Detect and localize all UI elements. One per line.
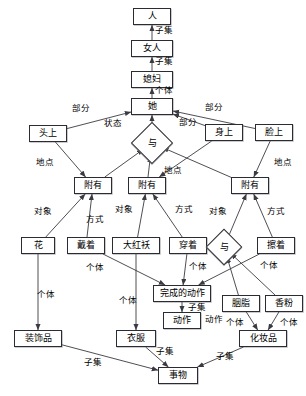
- edge-label: 子集: [216, 352, 234, 361]
- edge-yu2-to-fuyou3: [228, 194, 247, 238]
- edge-chuanzhe-to-wanchengdongzuo: [183, 254, 187, 285]
- edge-label: 方式: [175, 205, 193, 214]
- edge-label: 个体: [226, 318, 244, 327]
- edge-daizhe-to-wanchengdongzuo: [103, 254, 165, 285]
- node-yifu: 衣服: [116, 330, 156, 347]
- node-fuyou1: 附有: [74, 177, 112, 194]
- node-ren: 人: [133, 8, 171, 25]
- node-label-shiwu: 事物: [169, 371, 187, 380]
- node-label-yanzhi: 胭脂: [232, 299, 250, 308]
- edge-label: 对象: [209, 207, 227, 216]
- node-fuyou2: 附有: [128, 177, 166, 194]
- node-label-lianshang: 脸上: [265, 128, 283, 137]
- edge-label: 子集: [155, 57, 173, 66]
- node-label-fuyou3: 附有: [241, 181, 259, 190]
- node-label-yu1: 与: [137, 128, 167, 158]
- edge-label: 个体: [260, 261, 278, 270]
- node-label-fuyou1: 附有: [84, 181, 102, 190]
- node-label-dahongao: 大红袄: [123, 241, 150, 250]
- node-zhuangshipin: 装饰品: [14, 330, 62, 347]
- edge-label: 子集: [156, 347, 174, 356]
- node-daizhe: 戴着: [67, 237, 105, 254]
- node-huazhuangpin: 化妆品: [239, 330, 287, 347]
- edge-label: 子集: [84, 358, 102, 367]
- edge-label: 方式: [86, 215, 104, 224]
- node-dahongao: 大红袄: [112, 237, 160, 254]
- node-dongzuo: 动作: [163, 312, 201, 329]
- node-nvren: 女人: [131, 40, 173, 57]
- edge-label: 地点: [274, 158, 292, 167]
- edge-label: 地点: [164, 166, 182, 175]
- node-label-chuanzhe: 穿着: [179, 241, 197, 250]
- edge-yanzhi-to-yu2: [227, 257, 238, 295]
- node-label-cazhe: 擦着: [267, 241, 285, 250]
- edge-xiangfen-to-huazhuangpin: [268, 312, 279, 330]
- node-touting: 头上: [29, 125, 67, 142]
- node-wanchengdongzuo: 完成的动作: [153, 285, 211, 302]
- node-xiangfen: 香粉: [265, 295, 303, 312]
- edge-dahongao-to-fuyou2: [138, 194, 146, 237]
- edge-label: 状态: [104, 119, 122, 128]
- node-label-ren: 人: [148, 12, 157, 21]
- node-label-zhuangshipin: 装饰品: [25, 334, 52, 343]
- edge-yanzhi-to-huazhuangpin: [246, 312, 257, 330]
- edge-label: 个体: [37, 290, 55, 299]
- node-label-yifu: 衣服: [127, 334, 145, 343]
- edge-label: 个体: [119, 296, 137, 305]
- edge-label: 部分: [205, 103, 223, 112]
- node-label-yu2: 与: [211, 234, 237, 260]
- edge-label: 个体: [280, 318, 298, 327]
- edge-touting-to-fuyou1: [55, 142, 85, 177]
- edge-label: 子集: [188, 303, 206, 312]
- node-label-wanchengdongzuo: 完成的动作: [160, 289, 205, 298]
- edge-label: 子集: [155, 26, 173, 35]
- edge-label: 部分: [72, 104, 90, 113]
- node-fuyou3: 附有: [231, 177, 269, 194]
- node-label-touting: 头上: [39, 129, 57, 138]
- edge-label: 对象: [34, 207, 52, 216]
- node-lianshang: 脸上: [255, 124, 293, 141]
- node-hua: 花: [21, 237, 55, 254]
- semantic-network-diagram: 人女人媳妇她头上身上脸上与附有附有附有花戴着大红袄穿着与擦着完成的动作胭脂香粉动…: [0, 0, 306, 396]
- node-label-daizhe: 戴着: [77, 241, 95, 250]
- edge-label: 地点: [36, 158, 54, 167]
- node-label-hua: 花: [34, 241, 43, 250]
- edge-lianshang-to-fuyou3: [254, 141, 270, 177]
- edge-label: 动作: [205, 315, 223, 324]
- edge-label: 个体: [86, 263, 104, 272]
- node-shiwu: 事物: [158, 367, 198, 384]
- edge-label: 个体: [155, 86, 173, 95]
- node-label-nvren: 女人: [143, 44, 161, 53]
- node-label-fuyou2: 附有: [138, 181, 156, 190]
- edge-label: 个体: [189, 262, 207, 271]
- edge-chuanzhe-to-fuyou2: [153, 194, 182, 237]
- node-label-ta: 她: [148, 102, 157, 111]
- node-yanzhi: 胭脂: [222, 295, 260, 312]
- node-ta: 她: [131, 98, 173, 115]
- edge-label: 方式: [267, 207, 285, 216]
- node-cazhe: 擦着: [257, 237, 295, 254]
- node-shenshang: 身上: [205, 124, 243, 141]
- node-label-dongzuo: 动作: [173, 316, 191, 325]
- edge-label: 对象: [115, 205, 133, 214]
- node-label-xifu: 媳妇: [143, 75, 161, 84]
- edge-label: 部分: [179, 118, 197, 127]
- edge-zhuangshipin-to-shiwu: [62, 345, 158, 370]
- node-chuanzhe: 穿着: [169, 237, 207, 254]
- node-label-huazhuangpin: 化妆品: [250, 334, 277, 343]
- node-label-shenshang: 身上: [215, 128, 233, 137]
- node-label-xiangfen: 香粉: [275, 299, 293, 308]
